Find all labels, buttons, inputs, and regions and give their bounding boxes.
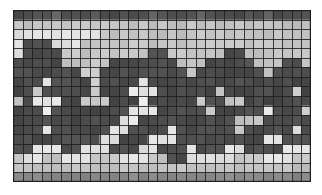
grid-mosaic-panel [13, 10, 311, 182]
grid-mosaic-canvas [13, 10, 311, 182]
figure-root [0, 0, 322, 195]
